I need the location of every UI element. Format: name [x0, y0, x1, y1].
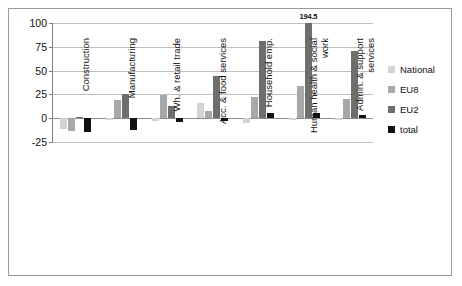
legend-item-national[interactable]: National [388, 59, 454, 79]
legend-swatch-icon [388, 86, 395, 93]
legend-label: EU8 [400, 84, 418, 95]
bar-national [106, 118, 113, 119]
bar-national [60, 118, 67, 128]
legend-item-eu2[interactable]: EU2 [388, 99, 454, 119]
bar-eu8 [68, 118, 75, 130]
legend-item-eu8[interactable]: EU8 [388, 79, 454, 99]
legend-label: total [400, 124, 418, 135]
bar-national [197, 103, 204, 118]
y-axis-tick-label: 50 [17, 65, 47, 77]
y-axis-tick-label: 25 [17, 88, 47, 100]
x-axis-label-wh-retail-trade: Wh. & retail trade [171, 38, 182, 148]
bar-value-label: 194.5 [300, 12, 318, 21]
bar-national [152, 118, 159, 121]
bar-eu8 [343, 99, 350, 118]
y-axis-tick-label: 100 [17, 17, 47, 29]
bar-national [335, 118, 342, 119]
chart-figure: -250255075100194.5 ConstructionManufactu… [0, 0, 462, 286]
legend-swatch-icon [388, 66, 395, 73]
x-axis-label-admin-support-services: Admin. & support services [354, 38, 376, 148]
bar-group [190, 23, 236, 142]
x-axis-label-human-health-social-work: Human health & socialwork [308, 38, 330, 148]
legend-swatch-icon [388, 126, 395, 133]
legend-label: National [400, 64, 435, 75]
y-axis-tick-label: 0 [17, 112, 47, 124]
y-axis-tick-label: -25 [17, 136, 47, 148]
bar-eu8 [297, 86, 304, 118]
legend-label: EU2 [400, 104, 418, 115]
bar-group [144, 23, 190, 142]
legend-swatch-icon [388, 106, 395, 113]
bar-group [53, 23, 99, 142]
legend-item-total[interactable]: total [388, 119, 454, 139]
x-axis-label-manufacturing: Manufacturing [126, 38, 137, 148]
bar-national [243, 118, 250, 123]
bar-eu8 [114, 100, 121, 118]
x-axis-label-household-emp: Household emp. [263, 38, 274, 148]
bar-national [289, 118, 296, 120]
bar-eu8 [160, 95, 167, 118]
y-axis-tick-label: 75 [17, 41, 47, 53]
bar-group [236, 23, 282, 142]
chart-legend: NationalEU8EU2total [388, 59, 454, 139]
bar-eu8 [205, 111, 212, 119]
bar-eu8 [251, 97, 258, 118]
x-axis-label-construction: Construction [80, 38, 91, 148]
bar-group [99, 23, 145, 142]
x-axis-label-acc-food-services: Acc. & food services [217, 38, 228, 148]
y-tick-mark--25 [49, 142, 53, 143]
